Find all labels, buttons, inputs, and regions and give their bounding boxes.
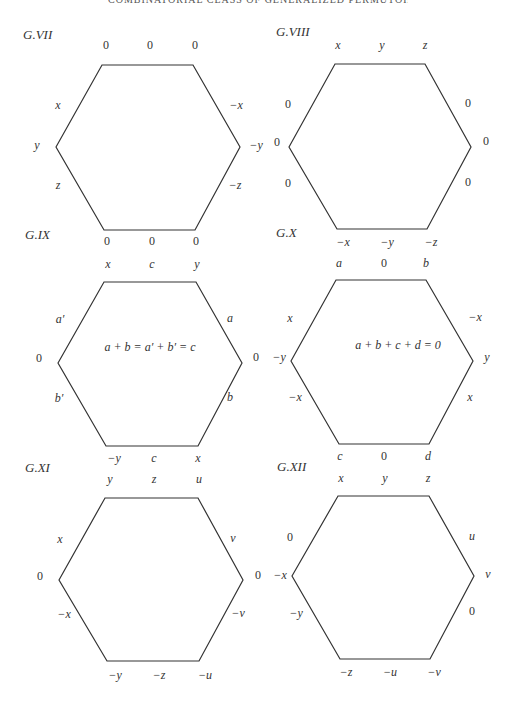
bottom-label: 0: [381, 449, 387, 464]
constraint-equation: a + b + c + d = 0: [355, 338, 441, 353]
top-label: 0: [192, 38, 198, 53]
right-label: u: [469, 529, 475, 544]
hexagon-g-xi: [59, 498, 243, 661]
bottom-label: −z: [340, 665, 353, 680]
left-label: −y: [289, 606, 302, 621]
bottom-label: 0: [193, 234, 199, 249]
right-label: −x: [468, 310, 481, 325]
right-label: −v: [231, 606, 244, 621]
right-label: 0: [253, 350, 259, 365]
bottom-label: −y: [108, 668, 121, 683]
top-label: c: [149, 257, 154, 272]
hexagon-g-viii: [289, 64, 471, 229]
constraint-equation: a + b = a′ + b′ = c: [105, 340, 196, 355]
right-label: b: [227, 390, 233, 405]
bottom-label: −u: [198, 668, 212, 683]
bottom-label: c: [337, 449, 342, 464]
top-label: u: [196, 472, 202, 487]
left-label: 0: [36, 351, 42, 366]
bottom-label: x: [195, 451, 200, 466]
right-label: a: [227, 311, 233, 326]
left-label: 0: [285, 97, 291, 112]
bottom-label: −z: [153, 668, 166, 683]
top-label: y: [382, 471, 387, 486]
top-label: y: [194, 257, 199, 272]
right-label: −y: [249, 138, 262, 153]
figure-title: G.X: [276, 225, 297, 241]
top-label: x: [338, 471, 343, 486]
right-label: 0: [483, 134, 489, 149]
left-label: x: [57, 532, 62, 547]
bottom-label: −u: [383, 665, 397, 680]
left-label: −x: [57, 607, 70, 622]
left-label: a′: [56, 312, 65, 327]
figure-title: G.XII: [277, 459, 306, 475]
top-label: y: [107, 472, 112, 487]
figure-title: G.XI: [25, 460, 50, 476]
top-label: 0: [103, 38, 109, 53]
bottom-label: −z: [425, 235, 438, 250]
top-label: a: [336, 256, 342, 271]
right-label: 0: [465, 96, 471, 111]
hexagon-g-vii: [56, 65, 240, 230]
hexagon-g-xii: [292, 496, 474, 659]
top-label: x: [105, 257, 110, 272]
top-label: z: [426, 471, 431, 486]
top-label: 0: [381, 256, 387, 271]
hexagon-g-ix: [58, 282, 242, 446]
right-label: x: [467, 390, 472, 405]
figure-title: G.VII: [23, 27, 52, 43]
right-label: 0: [465, 175, 471, 190]
left-label: y: [34, 138, 39, 153]
bottom-label: −y: [380, 235, 393, 250]
bottom-label: d: [425, 449, 431, 464]
left-label: −x: [288, 390, 301, 405]
right-label: −x: [229, 98, 242, 113]
left-label: 0: [285, 176, 291, 191]
top-label: x: [335, 38, 340, 53]
top-label: b: [423, 256, 429, 271]
bottom-label: 0: [104, 234, 110, 249]
left-label: b′: [55, 391, 64, 406]
right-label: v: [230, 531, 235, 546]
right-label: −z: [229, 178, 242, 193]
bottom-label: 0: [149, 234, 155, 249]
left-label: x: [55, 98, 60, 113]
figure-title: G.VIII: [276, 24, 310, 40]
figure-title: G.IX: [25, 227, 50, 243]
right-label: y: [484, 350, 489, 365]
left-label: z: [56, 178, 61, 193]
bottom-label: c: [151, 451, 156, 466]
top-label: z: [423, 38, 428, 53]
bottom-label: −x: [336, 235, 349, 250]
left-label: 0: [274, 135, 280, 150]
hexagon-g-x: [291, 280, 473, 444]
left-label: x: [287, 311, 292, 326]
top-label: z: [152, 472, 157, 487]
left-label: −y: [272, 350, 285, 365]
left-label: 0: [37, 569, 43, 584]
bottom-label: −y: [107, 451, 120, 466]
left-label: 0: [287, 530, 293, 545]
right-label: 0: [469, 604, 475, 619]
left-label: −x: [273, 568, 286, 583]
top-label: 0: [147, 38, 153, 53]
right-label: v: [485, 567, 490, 582]
right-label: 0: [255, 568, 261, 583]
bottom-label: −v: [427, 665, 440, 680]
top-label: y: [379, 38, 384, 53]
